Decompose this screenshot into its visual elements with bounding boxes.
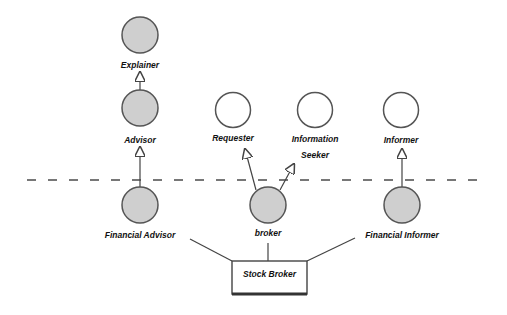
stock-broker-box: Stock Broker bbox=[232, 261, 307, 294]
node-label-line1: Information bbox=[292, 134, 339, 144]
node-informer: Informer bbox=[384, 93, 419, 146]
node-label: Requester bbox=[212, 133, 254, 143]
node-label-line2: Seeker bbox=[301, 150, 330, 160]
role-circle-icon bbox=[122, 187, 158, 223]
edge-broker-to-requester bbox=[245, 149, 256, 190]
node-requester: Requester bbox=[212, 93, 254, 144]
node-label: Financial Advisor bbox=[105, 230, 176, 240]
role-circle-icon bbox=[298, 93, 333, 128]
node-information-seeker: Information Seeker bbox=[292, 93, 339, 161]
node-label: Explainer bbox=[121, 60, 160, 70]
node-label: Advisor bbox=[123, 135, 156, 145]
edge-broker-to-information-seeker bbox=[280, 164, 294, 190]
node-label: Informer bbox=[384, 135, 419, 145]
role-circle-icon bbox=[250, 187, 286, 223]
role-diagram: Explainer Advisor Requester Information … bbox=[0, 0, 507, 315]
box-label: Stock Broker bbox=[243, 269, 297, 279]
node-broker: broker bbox=[250, 187, 286, 238]
edge-stock-broker-financial-advisor bbox=[190, 239, 232, 261]
role-circle-icon bbox=[122, 17, 158, 53]
role-circle-icon bbox=[216, 93, 251, 128]
role-circle-icon bbox=[122, 90, 158, 126]
node-explainer: Explainer bbox=[121, 17, 160, 70]
edge-stock-broker-financial-informer bbox=[307, 238, 355, 261]
node-financial-informer: Financial Informer bbox=[365, 187, 439, 240]
node-label: broker bbox=[255, 228, 282, 238]
node-financial-advisor: Financial Advisor bbox=[105, 187, 176, 240]
role-circle-icon bbox=[384, 187, 420, 223]
role-circle-icon bbox=[384, 93, 419, 128]
node-label: Financial Informer bbox=[365, 230, 439, 240]
node-advisor: Advisor bbox=[122, 90, 158, 145]
